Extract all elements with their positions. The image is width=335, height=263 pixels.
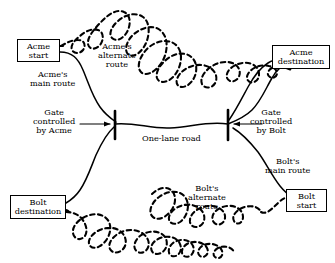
acme-alternate-route-path: [61, 11, 286, 88]
label-bolt-main-route: Bolt's main route: [265, 157, 310, 175]
label-gate-bolt-line3: by Bolt: [250, 126, 292, 135]
label-one-lane-road-line1: One-lane road: [142, 134, 201, 143]
node-acme-destination-line2: destination: [278, 57, 324, 66]
label-acme-alternate-route: Acme's alternate route: [98, 42, 136, 70]
node-acme-start-line2: start: [27, 51, 50, 60]
node-bolt-start[interactable]: Bolt start: [286, 189, 327, 212]
label-acme-main-route: Acme's main route: [30, 70, 75, 88]
node-bolt-start-line2: start: [297, 201, 317, 210]
label-gate-bolt: Gate controlled by Bolt: [250, 108, 292, 136]
label-acme-main-route-line2: main route: [30, 79, 75, 88]
node-acme-destination[interactable]: Acme destination: [272, 45, 330, 69]
label-acme-alternate-route-line3: route: [98, 60, 136, 69]
node-bolt-destination[interactable]: Bolt destination: [10, 195, 66, 219]
one-lane-road-path: [115, 123, 228, 128]
acme-lower-solid-path: [66, 127, 114, 203]
label-bolt-main-route-line2: main route: [265, 166, 310, 175]
node-bolt-destination-line2: destination: [15, 207, 61, 216]
label-gate-acme-line3: by Acme: [33, 126, 75, 135]
diagram-canvas: Acme start Acme destination Bolt destina…: [0, 0, 335, 263]
label-bolt-alternate-route-line3: route: [188, 202, 226, 211]
bolt-alternate-route-path: [66, 212, 234, 258]
label-one-lane-road: One-lane road: [142, 134, 201, 143]
label-bolt-alternate-route: Bolt's alternate route: [188, 184, 226, 212]
node-acme-start[interactable]: Acme start: [17, 39, 60, 62]
label-gate-acme: Gate controlled by Acme: [33, 108, 75, 136]
